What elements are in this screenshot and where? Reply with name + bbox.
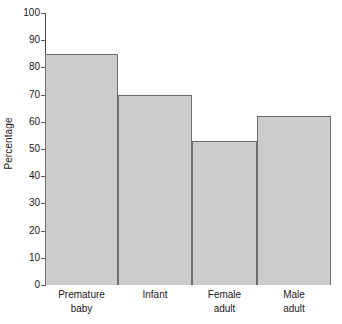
y-axis-tick-label: 10: [14, 253, 40, 263]
bar: [257, 116, 331, 285]
x-axis-category-label-line1: Female: [192, 288, 257, 302]
x-axis-category-label: Maleadult: [257, 288, 331, 316]
x-axis-category-labels: PrematurebabyInfantFemaleadultMaleadult: [45, 288, 331, 324]
y-axis-tick-label: 100: [14, 8, 40, 18]
bar: [118, 95, 192, 285]
x-axis-category-label-line1: Male: [257, 288, 331, 302]
x-axis-category-label-line2: adult: [192, 302, 257, 316]
y-axis-tick-label: 80: [14, 62, 40, 72]
x-axis-category-label-line1: Infant: [118, 288, 192, 302]
x-axis-category-label-line2: baby: [45, 302, 118, 316]
x-axis-category-label-line2: adult: [257, 302, 331, 316]
plot-area: [45, 13, 331, 285]
bar: [45, 54, 118, 285]
y-axis-tick-labels: 0102030405060708090100: [14, 0, 40, 286]
x-axis-category-label: Prematurebaby: [45, 288, 118, 316]
x-axis-category-label: Femaleadult: [192, 288, 257, 316]
y-axis-tick-label: 0: [14, 280, 40, 290]
y-axis-tick-label: 40: [14, 171, 40, 181]
y-axis-tick-mark: [41, 285, 46, 286]
y-axis-title-text: Percentage: [3, 117, 14, 169]
x-axis-category-label: Infant: [118, 288, 192, 302]
y-axis-tick-label: 30: [14, 198, 40, 208]
bar-chart: Percentage 0102030405060708090100 Premat…: [0, 0, 342, 324]
bars-layer: [45, 13, 331, 285]
y-axis-tick-label: 70: [14, 90, 40, 100]
y-axis-tick-label: 60: [14, 117, 40, 127]
bar: [192, 141, 257, 285]
y-axis-tick-label: 20: [14, 226, 40, 236]
x-axis-category-label-line1: Premature: [45, 288, 118, 302]
y-axis-tick-label: 50: [14, 144, 40, 154]
y-axis-tick-label: 90: [14, 35, 40, 45]
